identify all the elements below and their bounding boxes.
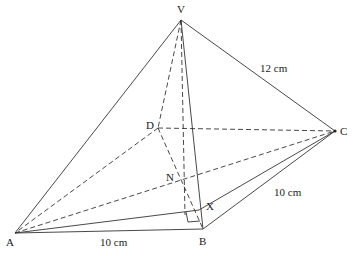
measure-bc: 10 cm [274, 187, 301, 198]
edge-dc [158, 128, 335, 131]
label-n: N [166, 172, 174, 183]
label-d: D [146, 120, 154, 131]
line-xc [199, 131, 335, 210]
edge-vd [158, 20, 181, 128]
line-ac [15, 131, 335, 233]
edge-da [15, 128, 158, 233]
edge-bc [203, 131, 335, 229]
label-x: X [206, 201, 214, 212]
pyramid-figure [0, 0, 359, 256]
measure-ab: 10 cm [100, 237, 127, 248]
label-c: C [340, 126, 347, 137]
edge-va [15, 20, 181, 233]
label-b: B [199, 236, 206, 247]
pyramid-diagram: V A B C D N X 12 cm 10 cm 10 cm [0, 0, 359, 256]
measure-vc: 12 cm [260, 63, 287, 74]
label-v: V [177, 4, 185, 15]
edge-vc [181, 20, 335, 131]
label-a: A [6, 237, 14, 248]
